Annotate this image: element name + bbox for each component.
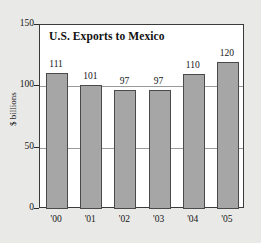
bar [149,90,171,209]
y-tick-label: 0 [8,203,34,213]
bar-value-label: 97 [139,77,179,87]
bar [114,90,136,209]
y-tick-label: 100 [8,80,34,90]
bar-value-label: 111 [36,60,76,70]
chart-figure: $ billions 050100150 U.S. Exports to Mex… [0,0,261,243]
y-axis-ticks: 050100150 [6,0,34,243]
bar-value-label: 120 [207,49,247,59]
y-tick-mark [34,208,39,209]
bar [217,62,239,209]
x-tick-label: '05 [207,215,247,225]
y-tick-label: 150 [8,19,34,29]
bar [183,74,205,209]
y-tick-label: 50 [8,142,34,152]
gridline [40,148,243,149]
bar-value-label: 110 [173,61,213,71]
bar [46,73,68,209]
chart-title: U.S. Exports to Mexico [49,30,165,42]
bar [80,85,102,209]
